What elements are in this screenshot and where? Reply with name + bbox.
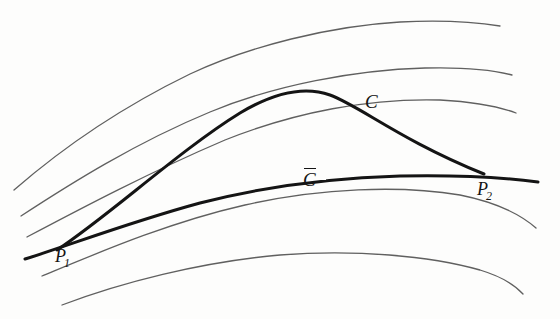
curve-c-bar-label: C — [303, 170, 316, 189]
curve-c-label: C — [365, 92, 378, 111]
field-curve-5 — [62, 253, 523, 305]
point-p2-subscript: 2 — [486, 189, 492, 203]
point-p1-label: P1 — [55, 247, 72, 265]
curve-c-bar-label-text: C — [303, 170, 316, 189]
figure-canvas: C C P1 P2 — [0, 0, 560, 319]
curve-c-label-text: C — [365, 91, 378, 112]
field-curve-2 — [21, 68, 512, 216]
field-curve-1 — [14, 21, 500, 190]
field-curve-4 — [42, 189, 536, 276]
point-p2-label: P2 — [477, 180, 494, 198]
point-p1-subscript: 1 — [64, 256, 70, 270]
extremal-field-diagram — [0, 0, 560, 319]
